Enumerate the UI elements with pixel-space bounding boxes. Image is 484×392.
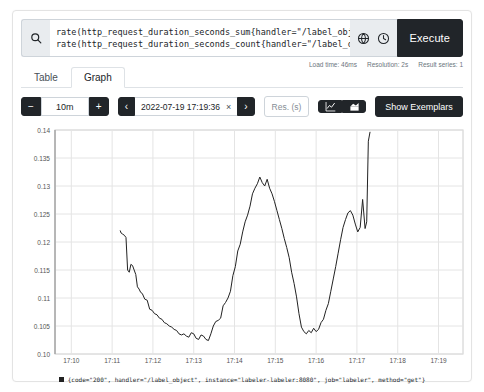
y-axis-tick-label: 0.105 [34,323,51,330]
line-chart-icon[interactable] [318,100,342,113]
time-navigator: ‹ 2022-07-19 17:19:36 × › [118,97,255,116]
query-row: rate(http_request_duration_seconds_sum{h… [21,19,463,57]
y-axis-tick-label: 0.125 [34,211,51,218]
prometheus-graph-page: rate(http_request_duration_seconds_sum{h… [0,0,484,392]
time-next-button[interactable]: › [237,97,254,116]
y-axis-tick-label: 0.115 [34,267,50,274]
execute-button[interactable]: Execute [397,19,463,57]
legend-swatch[interactable] [59,377,64,382]
range-value[interactable]: 10m [41,97,89,116]
load-time: Load time: 46ms [309,61,357,68]
clock-icon[interactable] [377,32,390,45]
query-line-1: rate(http_request_duration_seconds_sum{h… [56,26,344,38]
result-tabs: Table Graph [21,67,463,88]
y-axis-tick-label: 0.11 [38,295,51,302]
resolution-info: Resolution: 2s [367,61,408,68]
stacked-chart-icon[interactable] [342,100,366,113]
y-axis-tick-label: 0.14 [37,127,50,134]
x-axis-tick-label: 17:11 [104,357,120,364]
end-time-input[interactable]: 2022-07-19 17:19:36 × [135,97,237,116]
x-axis-tick-label: 17:13 [186,357,203,364]
y-axis-tick-label: 0.13 [37,183,50,190]
x-axis-tick-label: 17:17 [349,357,366,364]
tab-graph[interactable]: Graph [71,67,125,88]
end-time-value: 2022-07-19 17:19:36 [141,102,220,112]
x-axis-tick-label: 17:10 [63,357,80,364]
query-input[interactable]: rate(http_request_duration_seconds_sum{h… [50,19,350,57]
result-series: Result series: 1 [418,61,463,68]
range-stepper: − 10m + [21,97,109,116]
x-axis-tick-label: 17:19 [430,357,447,364]
time-prev-button[interactable]: ‹ [118,97,135,116]
y-axis-tick-label: 0.10 [37,351,50,358]
x-axis-tick-label: 17:15 [267,357,284,364]
show-exemplars-button[interactable]: Show Exemplars [375,96,463,117]
y-axis-tick-label: 0.135 [34,155,51,162]
x-axis-tick-label: 17:12 [145,357,162,364]
clear-time-icon[interactable]: × [226,102,231,112]
legend-label[interactable]: {code="200", handler="/label_object", in… [68,376,426,383]
chart-type-toggle [318,100,366,113]
y-axis-tick-label: 0.12 [37,239,50,246]
resolution-input[interactable]: Res. (s) [264,96,310,117]
range-decrease-button[interactable]: − [21,97,41,116]
search-icon[interactable] [21,19,50,57]
query-panel: rate(http_request_duration_seconds_sum{h… [12,10,472,382]
x-axis-tick-label: 17:16 [308,357,325,364]
chart-svg: 0.100.1050.110.1150.120.1250.130.1350.14… [21,124,471,372]
x-axis-tick-label: 17:14 [226,357,243,364]
graph-controls: − 10m + ‹ 2022-07-19 17:19:36 × › Res. (… [21,97,463,116]
graph-chart[interactable]: 0.100.1050.110.1150.120.1250.130.1350.14… [21,124,463,372]
globe-icon[interactable] [357,32,370,45]
tab-table[interactable]: Table [21,67,71,88]
query-line-2: rate(http_request_duration_seconds_count… [56,38,344,50]
query-tools [350,19,397,57]
chart-legend: {code="200", handler="/label_object", in… [21,376,463,383]
x-axis-tick-label: 17:18 [390,357,407,364]
range-increase-button[interactable]: + [89,97,109,116]
